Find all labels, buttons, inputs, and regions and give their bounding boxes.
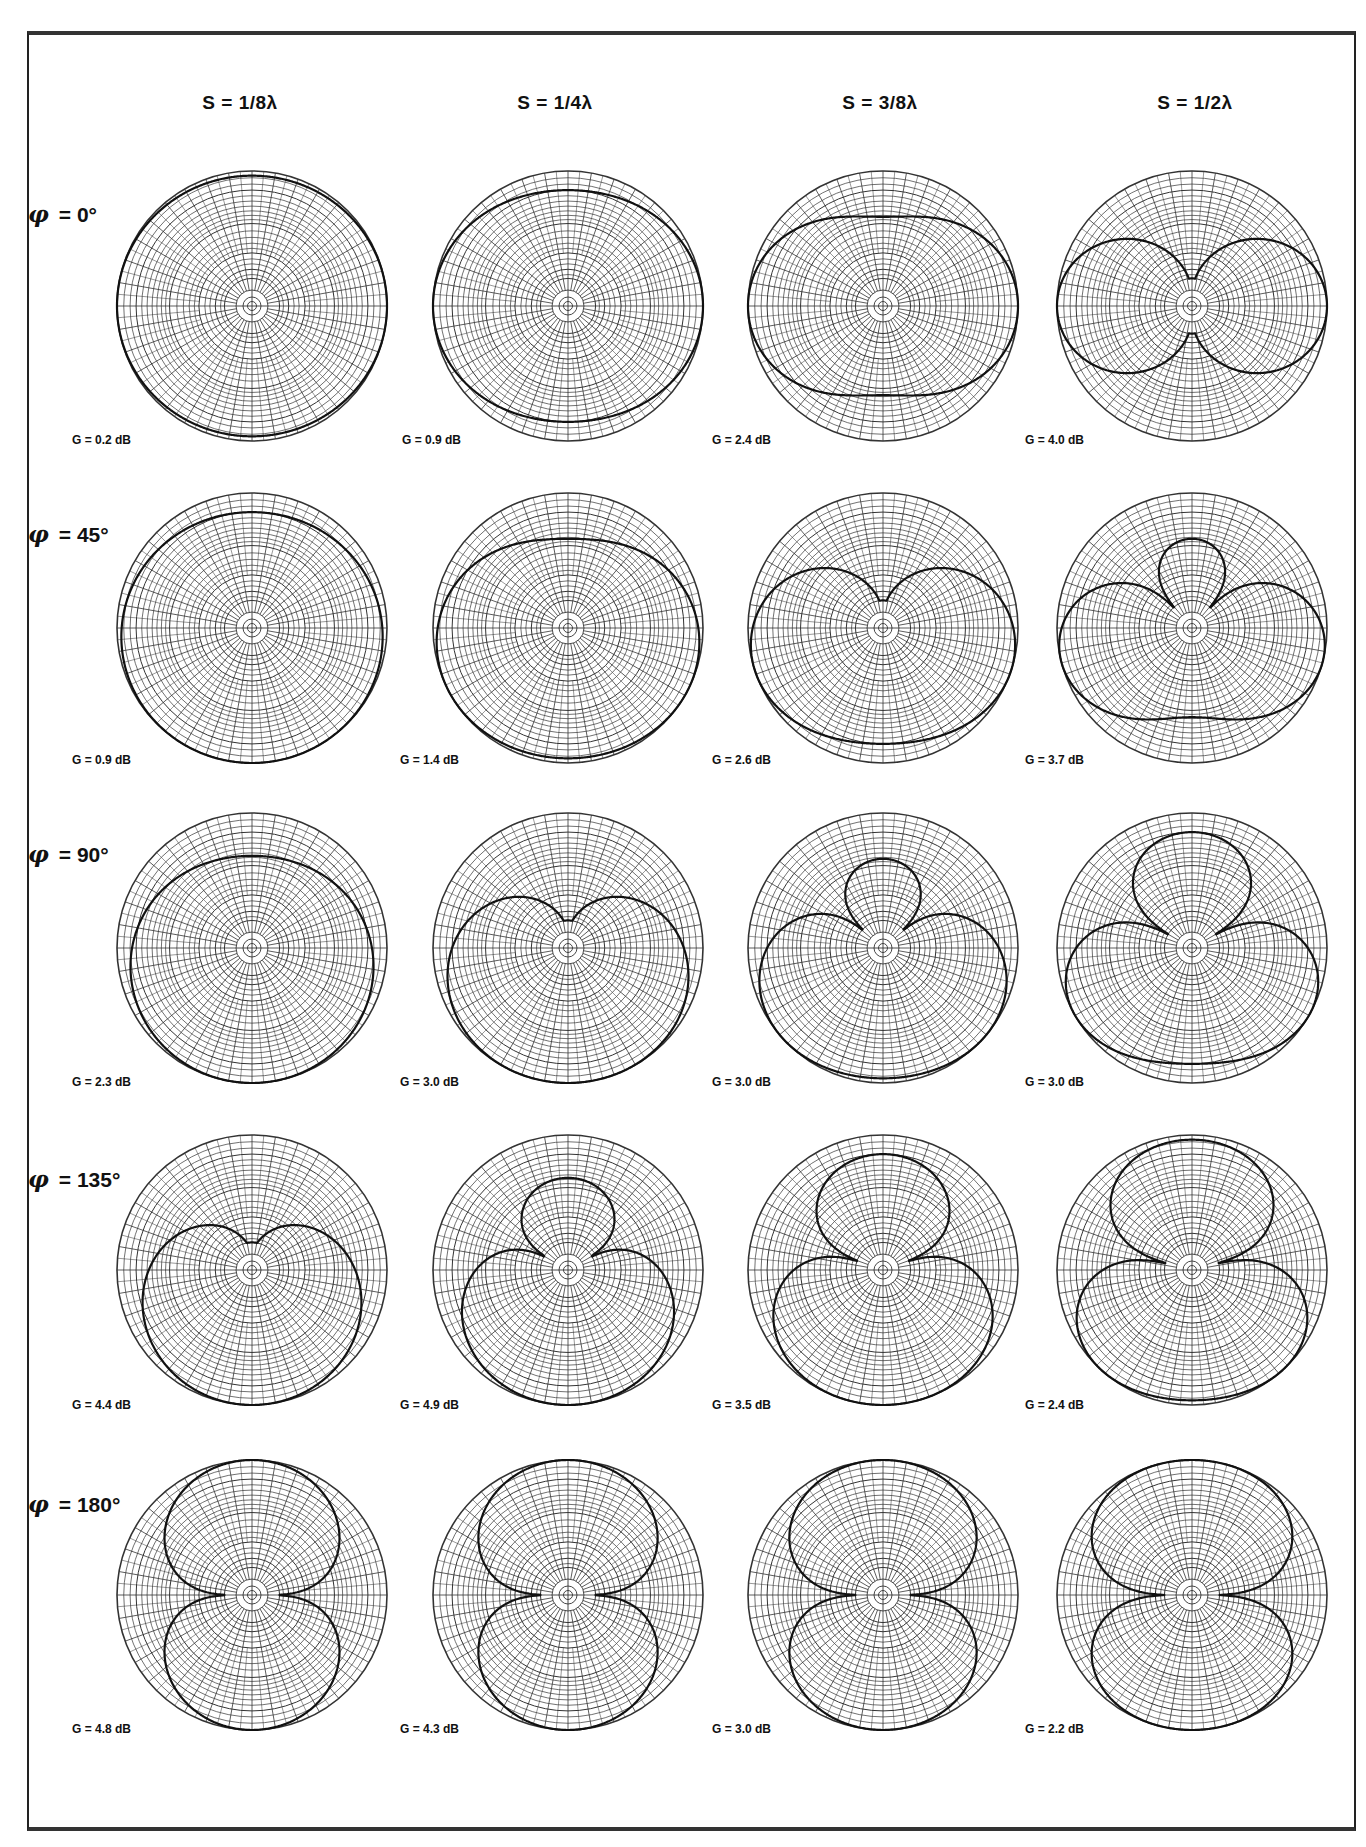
polar-chart-svg (743, 808, 1023, 1088)
polar-chart-svg (743, 1455, 1023, 1735)
polar-chart-svg (1052, 488, 1332, 768)
polar-plot (743, 1455, 1023, 1735)
gain-label: G = 0.9 dB (72, 753, 131, 767)
polar-chart-svg (428, 1130, 708, 1410)
gain-label: G = 3.0 dB (400, 1075, 459, 1089)
polar-chart-svg (1052, 1130, 1332, 1410)
polar-chart-svg (112, 1130, 392, 1410)
gain-label: G = 4.8 dB (72, 1722, 131, 1736)
gain-label: G = 3.0 dB (712, 1075, 771, 1089)
polar-chart-svg (112, 1455, 392, 1735)
polar-chart-svg (112, 808, 392, 1088)
polar-plot (112, 1130, 392, 1410)
gain-label: G = 2.4 dB (1025, 1398, 1084, 1412)
polar-chart-svg (1052, 166, 1332, 446)
polar-chart-svg (112, 488, 392, 768)
polar-plot (1052, 808, 1332, 1088)
polar-chart-svg (743, 488, 1023, 768)
polar-chart-svg (743, 1130, 1023, 1410)
polar-plot (743, 488, 1023, 768)
row-label-phase-0: φ= 0° (28, 200, 97, 227)
polar-plot (743, 808, 1023, 1088)
polar-plot (1052, 166, 1332, 446)
gain-label: G = 2.4 dB (712, 433, 771, 447)
polar-plot (112, 166, 392, 446)
gain-label: G = 4.0 dB (1025, 433, 1084, 447)
gain-label: G = 2.3 dB (72, 1075, 131, 1089)
polar-chart-svg (428, 808, 708, 1088)
gain-label: G = 0.9 dB (402, 433, 461, 447)
polar-chart-svg (1052, 808, 1332, 1088)
row-label-phase-45: φ= 45° (28, 520, 109, 547)
polar-plot (112, 808, 392, 1088)
polar-plot (743, 1130, 1023, 1410)
polar-plot (743, 166, 1023, 446)
polar-plot (112, 488, 392, 768)
row-label-phase-135: φ= 135° (28, 1165, 120, 1192)
polar-chart-svg (428, 488, 708, 768)
polar-chart-svg (112, 166, 392, 446)
polar-chart-svg (428, 1455, 708, 1735)
polar-plot (1052, 1130, 1332, 1410)
polar-plot (1052, 1455, 1332, 1735)
polar-plot (428, 1455, 708, 1735)
polar-chart-svg (1052, 1455, 1332, 1735)
gain-label: G = 3.7 dB (1025, 753, 1084, 767)
gain-label: G = 2.6 dB (712, 753, 771, 767)
polar-plot (1052, 488, 1332, 768)
polar-plot (428, 166, 708, 446)
polar-chart-svg (743, 166, 1023, 446)
gain-label: G = 0.2 dB (72, 433, 131, 447)
polar-chart-svg (428, 166, 708, 446)
gain-label: G = 3.5 dB (712, 1398, 771, 1412)
column-header-s-3-8: S = 3/8λ (780, 92, 980, 114)
polar-plot (428, 1130, 708, 1410)
gain-label: G = 4.4 dB (72, 1398, 131, 1412)
gain-label: G = 4.9 dB (400, 1398, 459, 1412)
gain-label: G = 2.2 dB (1025, 1722, 1084, 1736)
column-header-s-1-8: S = 1/8λ (140, 92, 340, 114)
polar-plot (428, 488, 708, 768)
column-header-s-1-2: S = 1/2λ (1095, 92, 1295, 114)
row-label-phase-90: φ= 90° (28, 840, 109, 867)
gain-label: G = 1.4 dB (400, 753, 459, 767)
gain-label: G = 3.0 dB (712, 1722, 771, 1736)
row-label-phase-180: φ= 180° (28, 1490, 120, 1517)
column-header-s-1-4: S = 1/4λ (455, 92, 655, 114)
gain-label: G = 4.3 dB (400, 1722, 459, 1736)
polar-plot (428, 808, 708, 1088)
gain-label: G = 3.0 dB (1025, 1075, 1084, 1089)
polar-plot (112, 1455, 392, 1735)
